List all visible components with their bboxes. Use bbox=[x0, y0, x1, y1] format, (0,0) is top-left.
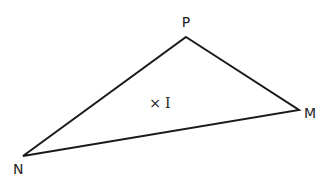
triangle-diagram: P M N × I bbox=[0, 0, 329, 191]
cross-marker-icon: × bbox=[149, 95, 161, 111]
vertex-label-p: P bbox=[182, 14, 190, 30]
vertex-label-m: M bbox=[304, 105, 316, 121]
point-i: × I bbox=[149, 95, 170, 111]
triangle-pmn bbox=[23, 37, 299, 156]
vertex-label-n: N bbox=[13, 161, 23, 177]
point-label-i: I bbox=[165, 95, 171, 111]
